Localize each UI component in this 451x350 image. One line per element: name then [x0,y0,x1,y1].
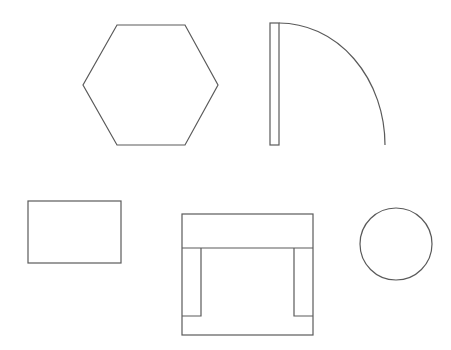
door-symbol [270,23,385,145]
armchair-symbol [182,214,313,335]
door-swing-arc [279,23,385,145]
armchair-outline [182,214,313,335]
hexagon-shape [83,25,218,145]
rectangle-shape [28,201,121,263]
door-leaf [270,23,279,145]
diagram-canvas [0,0,451,350]
circle-shape [360,208,432,280]
